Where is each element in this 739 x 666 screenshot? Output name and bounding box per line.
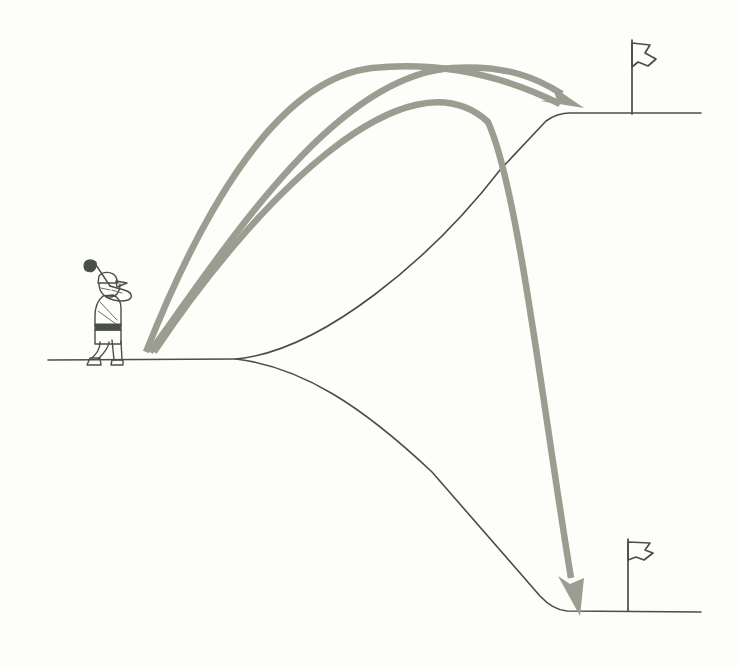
golfer-front-leg bbox=[112, 340, 114, 360]
diagram-canvas: Golf shot trajectory diagram A golfer dr… bbox=[0, 0, 739, 666]
golfer-shirt-fold-1 bbox=[100, 302, 117, 320]
lower-flag bbox=[628, 539, 653, 611]
trajectory-long-arc-to-lower-green bbox=[154, 102, 571, 578]
upper-flag bbox=[632, 40, 656, 114]
golfer-front-leg-outline bbox=[121, 341, 122, 360]
tee-ground-line bbox=[48, 359, 236, 360]
golfer-front-shoe bbox=[111, 360, 123, 365]
trajectory-group bbox=[146, 66, 584, 616]
golfer-cap-brim bbox=[116, 281, 127, 287]
upper-flag-banner bbox=[632, 43, 656, 67]
golf-club-head bbox=[84, 260, 96, 272]
golfer-belt bbox=[95, 324, 121, 330]
golfer-face-line bbox=[101, 288, 110, 290]
golfer-cap bbox=[98, 272, 118, 283]
lower-flag-banner bbox=[628, 542, 653, 560]
golfer-hands bbox=[112, 290, 122, 293]
downhill-terrain-line bbox=[236, 359, 701, 612]
golfer-figure bbox=[84, 260, 131, 365]
terrain-group bbox=[48, 113, 701, 612]
golf-trajectory-svg: Golf shot trajectory diagram A golfer dr… bbox=[0, 0, 739, 666]
golfer-hips bbox=[95, 330, 121, 344]
golfer-shirt-fold-2 bbox=[98, 311, 116, 324]
